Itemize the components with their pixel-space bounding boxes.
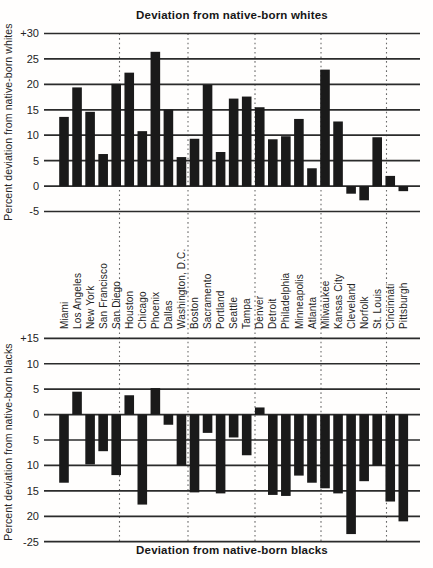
city-label: Denver [254, 295, 265, 329]
bar-denver [255, 407, 265, 414]
city-label: Norfolk [359, 295, 370, 329]
y-tick-label: 5 [33, 434, 39, 446]
bar-sacramento [203, 415, 213, 433]
city-label: Boston [189, 297, 200, 329]
city-label: San Diego [111, 281, 122, 329]
city-label: Seattle [228, 297, 239, 329]
bar-atlanta [307, 415, 317, 483]
y-tick-label: 20 [27, 78, 39, 90]
city-label: Dallas [163, 300, 174, 329]
y-tick-label: 0 [33, 180, 39, 192]
bar-san-diego [111, 84, 121, 186]
city-label: Portland [215, 291, 226, 329]
bottom-chart-y-axis-label: Percent deviation from native-born black… [2, 327, 16, 557]
bar-norfolk [359, 415, 369, 482]
city-label: Houston [124, 291, 135, 329]
city-label: San Francisco [98, 263, 109, 329]
city-label: Chicago [137, 291, 148, 329]
city-label: Cleveland [346, 283, 357, 329]
bar-chicago [138, 415, 148, 505]
bar-minneapolis [294, 119, 304, 186]
dual-bar-chart-figure: +302520151050-5+1510505101520-25MiamiLos… [0, 0, 433, 568]
bar-seattle [229, 99, 239, 186]
bar-washington-d-c- [177, 415, 187, 466]
bar-phoenix [151, 388, 161, 414]
city-label: Kansas City [333, 274, 344, 329]
bar-los-angeles [72, 392, 82, 415]
bar-houston [124, 73, 134, 186]
bar-tampa [242, 415, 252, 456]
city-label: New York [85, 285, 96, 329]
bar-san-diego [111, 415, 121, 476]
bar-new-york [85, 415, 95, 465]
y-tick-label: 5 [33, 155, 39, 167]
bar-seattle [229, 415, 239, 438]
bar-kansas-city [333, 121, 343, 186]
bar-miami [59, 117, 69, 186]
top-chart-y-axis-label: Percent deviation from native-born white… [2, 22, 16, 222]
bar-pittsburgh [399, 186, 409, 191]
y-tick-label: 10 [27, 358, 39, 370]
city-label: Cincinnati [385, 284, 396, 329]
bar-houston [124, 395, 134, 414]
bar-portland [216, 415, 226, 494]
city-label: Philadelphia [280, 272, 291, 329]
bar-cleveland [346, 415, 356, 534]
y-tick-label: 15 [27, 104, 39, 116]
bar-atlanta [307, 168, 317, 186]
bar-sacramento [203, 85, 213, 186]
bar-cincinnati [385, 415, 395, 502]
bar-cleveland [346, 186, 356, 194]
city-label: Detroit [267, 298, 278, 329]
bar-dallas [164, 415, 174, 425]
bar-dallas [164, 110, 174, 186]
y-tick-label: 10 [27, 129, 39, 141]
city-label: Washington, D.C. [176, 249, 187, 329]
bar-detroit [268, 139, 278, 186]
bar-cincinnati [385, 176, 395, 186]
bar-charts-canvas: +302520151050-5+1510505101520-25MiamiLos… [0, 0, 433, 568]
bar-portland [216, 152, 226, 186]
bar-st-louis [372, 415, 382, 466]
bar-kansas-city [333, 415, 343, 494]
bar-milwaukee [320, 70, 330, 186]
city-label: Phoenix [150, 292, 161, 329]
y-tick-label: +15 [20, 332, 39, 344]
city-label: Los Angeles [72, 273, 83, 329]
city-label: Miami [59, 302, 70, 329]
city-label: Tampa [241, 298, 252, 329]
y-tick-label: 25 [27, 53, 39, 65]
bar-detroit [268, 415, 278, 495]
city-label: Minneapolis [294, 274, 305, 329]
bar-new-york [85, 112, 95, 186]
bar-san-francisco [98, 415, 108, 452]
city-label: Pittsburgh [398, 282, 409, 329]
bar-philadelphia [281, 136, 291, 186]
bar-san-francisco [98, 154, 108, 186]
city-label: Milwaukee [320, 280, 331, 329]
bar-boston [190, 139, 200, 186]
bar-phoenix [151, 52, 161, 186]
bar-st-louis [372, 137, 382, 186]
city-label: St. Louis [372, 289, 383, 329]
bar-philadelphia [281, 415, 291, 496]
y-tick-label: -5 [29, 205, 39, 217]
city-label: Sacramento [202, 273, 213, 329]
bar-washington-d-c- [177, 157, 187, 186]
bar-los-angeles [72, 87, 82, 186]
bar-miami [59, 415, 69, 483]
bar-norfolk [359, 186, 369, 200]
bar-pittsburgh [399, 415, 409, 522]
y-tick-label: 10 [27, 459, 39, 471]
city-label: Atlanta [307, 297, 318, 329]
y-tick-label: 20 [27, 510, 39, 522]
bar-milwaukee [320, 415, 330, 489]
y-tick-label: 0 [33, 408, 39, 420]
top-chart-title: Deviation from native-born whites [44, 9, 420, 21]
y-tick-label: +30 [20, 27, 39, 39]
y-tick-label: -25 [23, 536, 39, 548]
bar-minneapolis [294, 415, 304, 476]
bar-denver [255, 107, 265, 186]
bar-tampa [242, 97, 252, 187]
y-tick-label: 15 [27, 485, 39, 497]
